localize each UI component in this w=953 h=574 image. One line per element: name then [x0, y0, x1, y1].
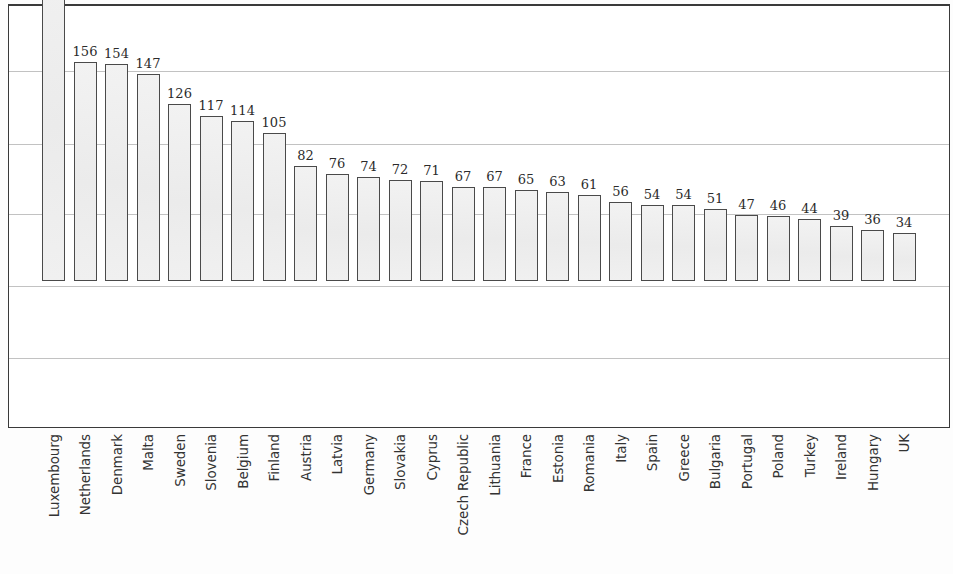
- category-label-text: Finland: [266, 434, 282, 482]
- category-label: Poland: [767, 434, 790, 574]
- bar-value-label: 147: [136, 57, 161, 70]
- bar[interactable]: [735, 215, 758, 281]
- category-label: Bulgaria: [704, 434, 727, 574]
- bar[interactable]: [672, 205, 695, 281]
- bar[interactable]: [483, 187, 506, 281]
- category-label-text: Poland: [770, 434, 786, 478]
- bar[interactable]: [42, 0, 65, 281]
- category-label-text: Spain: [644, 434, 660, 471]
- category-label-text: Romania: [581, 434, 597, 492]
- bar[interactable]: [704, 209, 727, 281]
- category-label: Estonia: [546, 434, 569, 574]
- bar-value-label: 76: [329, 157, 346, 170]
- chart-screenshot: 1561541471261171141058276747271676765636…: [0, 0, 953, 574]
- category-label-text: Italy: [613, 434, 629, 463]
- category-label: Malta: [137, 434, 160, 574]
- bar[interactable]: [578, 195, 601, 281]
- category-label: UK: [893, 434, 916, 574]
- bar[interactable]: [420, 181, 443, 281]
- bar[interactable]: [357, 177, 380, 281]
- bar[interactable]: [263, 133, 286, 281]
- category-labels-layer: LuxembourgNetherlandsDenmarkMaltaSwedenS…: [0, 428, 953, 574]
- category-label: Sweden: [168, 434, 191, 574]
- bar-value-label: 154: [104, 47, 129, 60]
- category-label: Czech Republic: [452, 434, 475, 574]
- bar[interactable]: [861, 230, 884, 281]
- category-label: Portugal: [735, 434, 758, 574]
- bar-value-label: 105: [262, 116, 287, 129]
- category-label-text: Greece: [676, 434, 692, 481]
- bar[interactable]: [389, 180, 412, 281]
- category-label-text: Germany: [361, 434, 377, 495]
- category-label-text: UK: [896, 434, 912, 453]
- category-label: Lithuania: [483, 434, 506, 574]
- category-label: Latvia: [326, 434, 349, 574]
- bar[interactable]: [168, 104, 191, 281]
- bar-value-label: 54: [675, 188, 692, 201]
- category-label-text: Portugal: [739, 434, 755, 489]
- bar-value-label: 34: [896, 216, 913, 229]
- bars-layer: 1561541471261171141058276747271676765636…: [0, 0, 953, 428]
- bar[interactable]: [798, 219, 821, 281]
- category-label: Slovenia: [200, 434, 223, 574]
- category-label-text: Turkey: [802, 434, 818, 477]
- bar-value-label: 71: [423, 164, 440, 177]
- category-label-text: Belgium: [235, 434, 251, 489]
- bar[interactable]: [200, 116, 223, 281]
- category-label: France: [515, 434, 538, 574]
- bar-value-label: 82: [297, 149, 314, 162]
- bar-value-label: 72: [392, 163, 409, 176]
- bar[interactable]: [137, 74, 160, 281]
- category-label: Denmark: [105, 434, 128, 574]
- bar-value-label: 54: [644, 188, 661, 201]
- bar-value-label: 46: [770, 199, 787, 212]
- category-label-text: Luxembourg: [46, 434, 62, 517]
- bar-value-label: 67: [455, 170, 472, 183]
- bar[interactable]: [893, 233, 916, 281]
- category-label-text: Denmark: [109, 434, 125, 495]
- bar[interactable]: [326, 174, 349, 281]
- category-label: Finland: [263, 434, 286, 574]
- bar-value-label: 39: [833, 209, 850, 222]
- category-label-text: Czech Republic: [455, 434, 471, 535]
- bar[interactable]: [515, 190, 538, 281]
- category-label: Germany: [357, 434, 380, 574]
- bar-value-label: 67: [486, 170, 503, 183]
- bar[interactable]: [830, 226, 853, 281]
- bar-value-label: 47: [738, 198, 755, 211]
- category-label-text: Slovakia: [392, 434, 408, 490]
- bar-value-label: 56: [612, 185, 629, 198]
- category-label-text: Austria: [298, 434, 314, 481]
- category-label: Austria: [294, 434, 317, 574]
- bar[interactable]: [641, 205, 664, 281]
- category-label-text: Cyprus: [424, 434, 440, 481]
- category-label: Slovakia: [389, 434, 412, 574]
- bar[interactable]: [767, 216, 790, 281]
- bar[interactable]: [231, 121, 254, 281]
- bar-value-label: 63: [549, 175, 566, 188]
- category-label: Netherlands: [74, 434, 97, 574]
- category-label: Belgium: [231, 434, 254, 574]
- bar[interactable]: [74, 62, 97, 281]
- category-label-text: Bulgaria: [707, 434, 723, 489]
- category-label-text: Netherlands: [77, 434, 93, 515]
- category-label: Greece: [672, 434, 695, 574]
- bar-value-label: 74: [360, 160, 377, 173]
- category-label-text: Sweden: [172, 434, 188, 487]
- bar-value-label: 36: [864, 213, 881, 226]
- category-label-text: Ireland: [833, 434, 849, 480]
- bar-value-label: 65: [518, 173, 535, 186]
- bar-value-label: 156: [73, 45, 98, 58]
- category-label-text: Slovenia: [203, 434, 219, 491]
- bar-value-label: 51: [707, 192, 724, 205]
- category-label-text: Hungary: [865, 434, 881, 491]
- category-label: Luxembourg: [42, 434, 65, 574]
- bar[interactable]: [105, 64, 128, 281]
- bar[interactable]: [452, 187, 475, 281]
- category-label: Cyprus: [420, 434, 443, 574]
- bar[interactable]: [546, 192, 569, 281]
- bar-value-label: 61: [581, 178, 598, 191]
- bar[interactable]: [294, 166, 317, 281]
- bar[interactable]: [609, 202, 632, 281]
- bar-value-label: 114: [230, 104, 255, 117]
